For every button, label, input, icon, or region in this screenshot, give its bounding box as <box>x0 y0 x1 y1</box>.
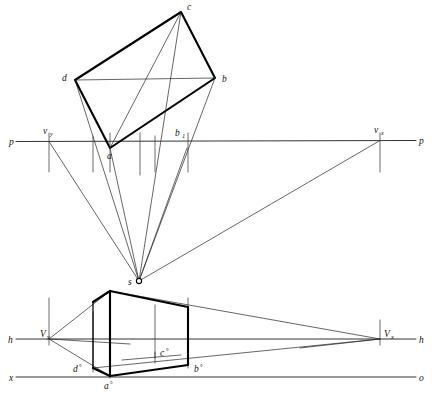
converge-vy-short-ray <box>49 339 130 344</box>
picture-plane-line-group <box>16 141 416 142</box>
interior-construction-near-c <box>122 352 181 363</box>
label-persp-vertex-d: d <box>73 364 78 374</box>
station-point-group <box>136 278 141 283</box>
label-persp-vertex-b-mark: ° <box>200 363 203 371</box>
label-persp-vertex-b: b <box>194 364 199 374</box>
ray-b1-to-s <box>139 148 187 281</box>
label-persp-a0-group: a ° <box>104 380 113 391</box>
ray-s-to-vy-top <box>49 142 139 282</box>
convergence-lines-right-vp <box>93 291 380 368</box>
label-Vy-group: V y <box>40 329 50 340</box>
box-bottom-left-edge <box>93 368 110 376</box>
label-h-right: h <box>419 335 424 345</box>
label-station-point-s: s <box>128 277 132 287</box>
label-Vy: V <box>40 329 47 339</box>
label-plan-vertex-a: a <box>107 151 112 161</box>
converge-vx-to-top <box>110 291 380 339</box>
vanishing-rays-upper <box>49 141 380 282</box>
label-plan-aux-b1-group: b 1 <box>175 128 185 139</box>
label-Vx-group: V x <box>384 329 394 340</box>
label-h-left: h <box>8 335 13 345</box>
label-vx-top: v <box>374 125 379 135</box>
label-p-right: p <box>418 136 424 146</box>
box-bottom-right-edge <box>110 365 188 376</box>
label-Vx: V <box>384 329 391 339</box>
ray-s-to-vx-top <box>139 141 380 282</box>
picture-plane-line-p <box>16 141 416 142</box>
vertical-projectors-lower <box>49 290 380 378</box>
label-plan-aux-b1: b <box>175 128 180 138</box>
convergence-lines-left-vp <box>49 291 130 376</box>
label-plan-vertex-b: b <box>222 74 227 84</box>
plan-view-construction-lines <box>75 12 215 148</box>
label-p-left: p <box>8 137 14 147</box>
label-persp-b0-group: b ° <box>194 363 203 374</box>
converge-vy-to-top-back <box>49 291 110 339</box>
label-vx-top-subscript: x <box>380 129 384 136</box>
label-vy-top-subscript: y <box>49 130 53 137</box>
label-persp-d0-group: d ° <box>73 363 82 374</box>
label-persp-vertex-d-mark: ° <box>79 363 82 371</box>
label-o-right: o <box>419 373 424 383</box>
label-plan-aux-b1-subscript: 1 <box>182 132 185 139</box>
c-construction-chord <box>122 355 181 360</box>
converge-vx-short-ray <box>300 339 380 348</box>
label-x-left: x <box>8 373 14 383</box>
label-plan-vertex-d: d <box>62 73 67 83</box>
label-persp-vertex-a: a <box>104 381 109 391</box>
converge-vx-to-bottom <box>93 339 380 368</box>
box-top-right-edge <box>110 291 188 307</box>
perspective-construction-figure: p p h h x o a b c d b 1 v y v x s V <box>0 0 432 404</box>
technical-drawing-canvas: p p h h x o a b c d b 1 v y v x s V <box>0 0 432 404</box>
ray-b-to-s <box>139 78 215 281</box>
label-persp-vertex-a-mark: ° <box>110 380 113 388</box>
box-top-left-edge <box>93 291 110 302</box>
label-vy-top: v <box>43 126 48 136</box>
label-vx-top-group: v x <box>374 125 384 136</box>
ray-a-to-s <box>110 148 139 281</box>
sight-rays-to-station-point <box>75 12 215 281</box>
station-point-marker <box>136 278 141 283</box>
label-persp-vertex-c-mark: ° <box>166 347 169 355</box>
label-Vx-subscript: x <box>390 333 394 340</box>
label-plan-vertex-c: c <box>187 2 192 12</box>
plan-chord-d-to-b <box>75 78 215 80</box>
label-Vy-subscript: y <box>46 333 50 340</box>
label-vy-top-group: v y <box>43 126 53 137</box>
